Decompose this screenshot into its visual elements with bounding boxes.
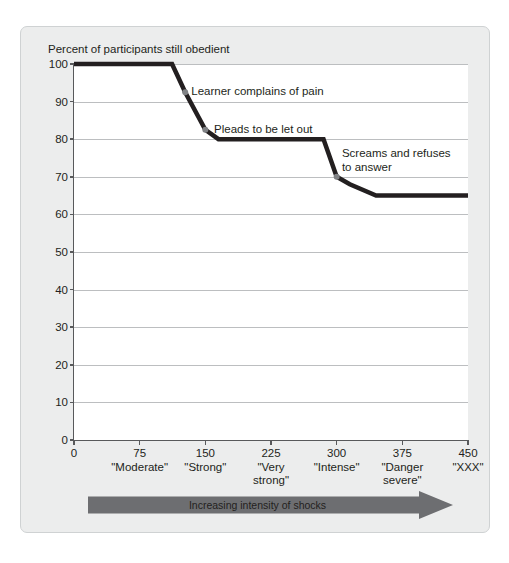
y-tick-label: 100 (49, 58, 68, 70)
y-tick-label: 60 (55, 208, 68, 220)
x-tick-category: "Very strong" (235, 461, 307, 488)
y-tick-label: 0 (62, 434, 68, 446)
x-tick-mark (205, 440, 207, 445)
x-tick-label-group: 375"Danger severe" (366, 447, 438, 488)
y-tick-label: 10 (55, 396, 68, 408)
x-tick-label-group: 450"XXX" (432, 447, 504, 474)
data-point-marker (334, 174, 340, 180)
x-tick-label-group: 0 (38, 447, 110, 461)
x-tick-label-group: 150"Strong" (169, 447, 241, 474)
chart-annotation: Screams and refuses to answer (342, 147, 451, 174)
x-tick-value: 150 (169, 447, 241, 461)
plot-area: 0102030405060708090100 075"Moderate"150"… (73, 64, 468, 441)
figure-panel: Percent of participants still obedient 0… (20, 26, 490, 533)
x-tick-mark (467, 440, 469, 445)
x-tick-label-group: 225"Very strong" (235, 447, 307, 488)
x-tick-value: 450 (432, 447, 504, 461)
intensity-arrow: Increasing intensity of shocks (88, 490, 453, 520)
x-tick-category: "XXX" (432, 461, 504, 475)
x-tick-mark (270, 440, 272, 445)
y-tick-label: 40 (55, 284, 68, 296)
y-tick-label: 20 (55, 359, 68, 371)
y-tick-label: 70 (55, 171, 68, 183)
x-tick-value: 300 (301, 447, 373, 461)
x-tick-label-group: 75"Moderate" (104, 447, 176, 474)
x-tick-label-group: 300"Intense" (301, 447, 373, 474)
x-tick-value: 75 (104, 447, 176, 461)
y-tick-label: 50 (55, 246, 68, 258)
x-tick-value: 225 (235, 447, 307, 461)
x-tick-category: "Strong" (169, 461, 241, 475)
x-tick-category: "Moderate" (104, 461, 176, 475)
x-tick-value: 375 (366, 447, 438, 461)
x-tick-category: "Intense" (301, 461, 373, 475)
y-tick-label: 30 (55, 321, 68, 333)
x-tick-mark (402, 440, 404, 445)
y-tick-label: 80 (55, 133, 68, 145)
chart-annotation: Pleads to be let out (214, 123, 312, 137)
chart-title: Percent of participants still obedient (48, 43, 230, 55)
chart-annotation: Learner complains of pain (191, 85, 323, 99)
arrow-label: Increasing intensity of shocks (88, 490, 453, 520)
x-tick-category: "Danger severe" (366, 461, 438, 488)
data-point-marker (202, 127, 208, 133)
x-tick-mark (73, 440, 75, 445)
x-tick-mark (139, 440, 141, 445)
x-tick-value: 0 (38, 447, 110, 461)
data-point-marker (182, 89, 188, 95)
x-tick-mark (336, 440, 338, 445)
data-line-series (74, 64, 468, 440)
y-tick-label: 90 (55, 96, 68, 108)
